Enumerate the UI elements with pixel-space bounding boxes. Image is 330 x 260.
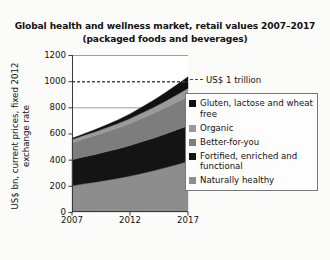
legend-item-label: Gluten, lactose and wheat free — [200, 98, 314, 119]
y-tick-label-200: 200 — [36, 181, 66, 191]
legend-item[interactable]: Fortified, enriched and functional — [189, 151, 314, 172]
chart-title-line-2: (packaged foods and beverages) — [0, 33, 330, 46]
dashed-line-icon — [190, 79, 203, 80]
y-tick-label-800: 800 — [36, 102, 66, 112]
chart-title: Global health and wellness market, retai… — [0, 20, 330, 45]
y-tick-label-1200: 1200 — [36, 50, 66, 60]
legend-item-label: Better-for-you — [200, 137, 259, 148]
legend-item-label: Fortified, enriched and functional — [200, 151, 314, 172]
trillion-annotation-label: US$ 1 trillion — [206, 75, 261, 85]
y-axis-title-line-1: US$ bn, current prices, fixed 2012 — [10, 49, 21, 224]
legend-swatch-icon — [189, 153, 196, 160]
chart-legend: Gluten, lactose and wheat freeOrganicBet… — [185, 93, 318, 191]
legend-item[interactable]: Organic — [189, 123, 314, 134]
chart-title-line-1: Global health and wellness market, retai… — [0, 20, 330, 33]
y-tick-label-400: 400 — [36, 155, 66, 165]
y-tick-label-1000: 1000 — [36, 76, 66, 86]
legend-item-label: Organic — [200, 123, 233, 134]
chart-figure: Global health and wellness market, retai… — [0, 0, 330, 260]
legend-swatch-icon — [189, 139, 196, 146]
y-tick-label-600: 600 — [36, 128, 66, 138]
plot-area — [67, 54, 191, 217]
y-axis-title: US$ bn, current prices, fixed 2012 excha… — [10, 49, 32, 224]
y-axis-title-line-2: exchange rate — [21, 49, 32, 224]
legend-item-label: Naturally healthy — [200, 175, 274, 186]
legend-swatch-icon — [189, 177, 196, 184]
legend-item[interactable]: Gluten, lactose and wheat free — [189, 98, 314, 119]
stacked-area-svg — [67, 54, 191, 217]
legend-item[interactable]: Naturally healthy — [189, 175, 314, 186]
legend-swatch-icon — [189, 125, 196, 132]
trillion-annotation: US$ 1 trillion — [190, 75, 261, 85]
legend-swatch-icon — [189, 100, 196, 107]
legend-item[interactable]: Better-for-you — [189, 137, 314, 148]
